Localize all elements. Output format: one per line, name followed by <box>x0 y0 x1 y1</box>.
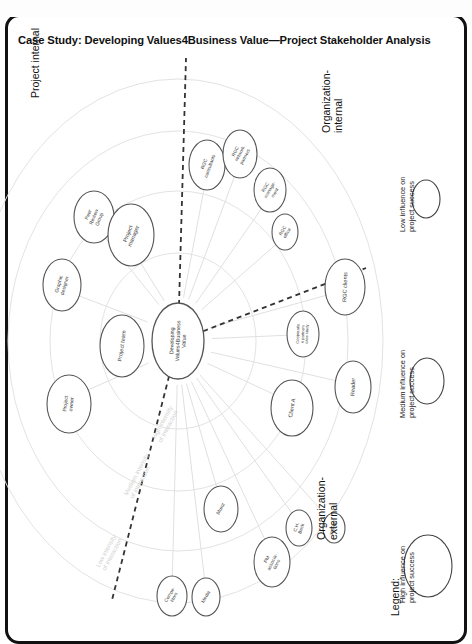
stakeholder-node-cooperation-partners[interactable] <box>287 311 319 357</box>
stakeholder-node-rgc-consultants[interactable] <box>189 140 225 190</box>
legend-title: Legend: <box>389 578 401 616</box>
spoke-rgc-consultants <box>184 188 205 298</box>
spoke-project-manager <box>140 261 165 301</box>
stakeholder-node-rgc-clients[interactable] <box>325 259 365 315</box>
stakeholder-node-rgc-office[interactable] <box>272 214 298 250</box>
stakeholder-node-project-owner[interactable] <box>47 375 91 433</box>
stakeholder-node-media[interactable] <box>192 578 220 616</box>
quadrant-label-project-internal: Project internal <box>30 28 42 98</box>
quadrant-label-organization-external: Organization- external <box>316 477 340 540</box>
stakeholder-node-competitors[interactable] <box>157 576 187 616</box>
quadrant-label-organization-internal: Organization- internal <box>321 70 345 133</box>
spoke-reader <box>211 352 337 381</box>
stakeholder-node-rgc-management[interactable] <box>254 168 286 212</box>
stakeholder-node-ch-beck[interactable] <box>286 510 312 546</box>
spoke-rgc-office <box>202 244 277 310</box>
stakeholder-node-project-manager[interactable] <box>108 204 154 266</box>
legend-label-legend-medium: Medium influence on project success <box>398 350 417 418</box>
center-node[interactable] <box>152 303 204 379</box>
spoke-cooperation-partners <box>212 335 288 338</box>
stakeholder-node-pm-associations[interactable] <box>254 537 290 587</box>
stakeholder-node-reader[interactable] <box>335 361 371 413</box>
stakeholder-node-rgc-network-partners[interactable] <box>223 130 257 178</box>
spoke-client-a <box>207 363 275 395</box>
stakeholder-node-client-a[interactable] <box>271 380 313 436</box>
stakeholder-node-munz[interactable] <box>204 486 238 532</box>
stakeholder-node-project-team[interactable] <box>100 315 144 377</box>
spoke-rgc-management <box>196 207 263 303</box>
divider-top <box>178 58 186 341</box>
spoke-munz <box>186 384 217 489</box>
stakeholder-node-graphic-designer[interactable] <box>43 259 81 311</box>
legend-label-legend-low: Low influence on project success <box>398 177 417 232</box>
